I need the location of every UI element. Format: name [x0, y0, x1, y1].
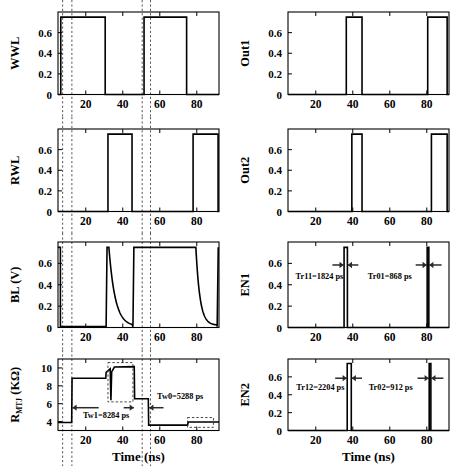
measurement-annotation: Tw1=8284 ps — [83, 411, 130, 420]
y-tick-label: 0.2 — [268, 300, 282, 312]
y-tick-label: 6 — [47, 397, 53, 409]
svg-text:WWL: WWL — [8, 37, 22, 70]
x-tick-label: 40 — [117, 98, 129, 110]
svg-text:BL (V): BL (V) — [8, 267, 22, 303]
svg-text:Out1: Out1 — [238, 40, 252, 67]
waveform-trace — [288, 134, 449, 211]
waveform-trace — [288, 363, 449, 430]
y-tick-label: 0.4 — [268, 164, 282, 176]
x-axis-label: Time (ns) — [112, 448, 165, 463]
panel-out1: 00.20.40.620406080Out1 — [230, 0, 459, 117]
y-tick-label: 0.4 — [268, 279, 282, 291]
panel-en1: 00.20.40.620406080EN1Tr11=1824 psTr01=86… — [230, 233, 459, 350]
svg-text:EN2: EN2 — [238, 382, 252, 406]
waveform-trace — [288, 247, 449, 327]
x-tick-label: 40 — [347, 98, 359, 110]
x-tick-label: 20 — [80, 214, 92, 226]
waveform-trace — [288, 17, 449, 94]
waveform-trace — [58, 247, 218, 326]
y-tick-label: 0 — [47, 89, 53, 101]
y-tick-label: 0.6 — [268, 370, 282, 382]
y-axis-label: RMTJ (KΩ) — [8, 366, 24, 422]
waveform-figure: 00.20.40.620406080WWL00.20.40.620406080R… — [0, 0, 459, 466]
x-tick-label: 60 — [384, 98, 396, 110]
y-tick-label: 0.4 — [268, 47, 282, 59]
panel-out2: 00.20.40.620406080Out2 — [230, 117, 459, 234]
arrow-head — [340, 262, 344, 268]
y-tick-label: 0 — [277, 424, 283, 436]
arrow-head — [149, 404, 153, 410]
x-tick-label: 20 — [80, 433, 92, 445]
x-tick-label: 40 — [117, 331, 129, 343]
x-tick-label: 60 — [384, 214, 396, 226]
plot-frame — [58, 12, 219, 95]
y-tick-label: 0 — [47, 205, 53, 217]
y-tick-label: 0.6 — [38, 143, 52, 155]
svg-text:RMTJ (KΩ): RMTJ (KΩ) — [8, 366, 24, 422]
svg-text:EN1: EN1 — [238, 273, 252, 297]
x-tick-label: 60 — [154, 433, 166, 445]
y-tick-label: 0.4 — [268, 388, 282, 400]
x-tick-label: 20 — [80, 331, 92, 343]
x-tick-label: 20 — [310, 331, 322, 343]
x-tick-label: 80 — [421, 214, 433, 226]
measurement-annotation: Tw0=5288 ps — [157, 392, 204, 401]
y-tick-label: 0.2 — [268, 68, 282, 80]
x-tick-label: 20 — [310, 433, 322, 445]
x-tick-label: 80 — [191, 214, 203, 226]
y-axis-label: Out1 — [238, 40, 252, 67]
y-tick-label: 8 — [47, 379, 53, 391]
measurement-annotation: Tr11=1824 ps — [296, 272, 344, 281]
y-axis-label: Out2 — [238, 156, 252, 183]
y-tick-label: 0.2 — [38, 68, 52, 80]
y-tick-label: 0 — [47, 322, 53, 334]
plot-frame — [288, 242, 449, 328]
x-tick-label: 80 — [191, 433, 203, 445]
y-tick-label: 10 — [41, 361, 53, 373]
x-tick-label: 60 — [154, 98, 166, 110]
x-tick-label: 80 — [421, 98, 433, 110]
plot-frame — [58, 129, 219, 212]
plot-frame — [288, 129, 449, 212]
x-tick-label: 60 — [384, 433, 396, 445]
y-axis-label: WWL — [8, 37, 22, 70]
x-tick-label: 20 — [310, 98, 322, 110]
y-tick-label: 0 — [277, 89, 283, 101]
y-tick-label: 0.4 — [38, 279, 52, 291]
y-axis-label: RWL — [8, 155, 22, 184]
x-tick-label: 20 — [80, 98, 92, 110]
panel-wwl: 00.20.40.620406080WWL — [0, 0, 229, 117]
plot-frame — [288, 359, 449, 431]
arrow-head — [425, 375, 429, 381]
y-tick-label: 0 — [277, 205, 283, 217]
measurement-annotation: Tr02=912 ps — [369, 383, 414, 392]
y-axis-label: EN2 — [238, 382, 252, 406]
y-tick-label: 0.4 — [38, 164, 52, 176]
arrow-head — [431, 375, 435, 381]
x-tick-label: 40 — [117, 214, 129, 226]
svg-text:RWL: RWL — [8, 155, 22, 184]
y-axis-label: BL (V) — [8, 267, 22, 303]
svg-text:Out2: Out2 — [238, 156, 252, 183]
y-tick-label: 0.2 — [38, 300, 52, 312]
x-tick-label: 40 — [347, 433, 359, 445]
x-tick-label: 40 — [347, 214, 359, 226]
x-tick-label: 80 — [191, 331, 203, 343]
y-tick-label: 0.6 — [38, 257, 52, 269]
arrow-head — [429, 262, 433, 268]
x-tick-label: 20 — [310, 214, 322, 226]
y-tick-label: 0.6 — [38, 27, 52, 39]
y-tick-label: 0.6 — [268, 143, 282, 155]
arrow-head — [343, 375, 347, 381]
measurement-annotation: Tr01=868 ps — [368, 272, 413, 281]
x-tick-label: 80 — [421, 331, 433, 343]
x-tick-label: 80 — [191, 98, 203, 110]
panel-en2: 00.20.40.620406080EN2Time (ns)Tr12=2204 … — [230, 350, 459, 466]
y-tick-label: 4 — [47, 415, 53, 427]
plot-frame — [58, 242, 219, 328]
x-tick-label: 40 — [347, 331, 359, 343]
arrow-head — [352, 375, 356, 381]
y-tick-label: 0 — [277, 322, 283, 334]
y-tick-label: 0.6 — [268, 27, 282, 39]
y-tick-label: 0.4 — [38, 47, 52, 59]
